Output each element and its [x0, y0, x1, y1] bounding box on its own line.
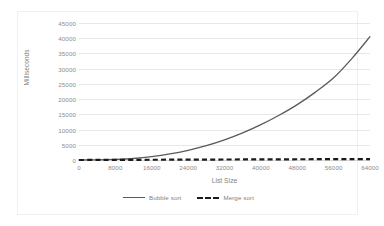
x-tick-label: 8000: [95, 164, 135, 171]
legend-item[interactable]: Bubble sort: [123, 194, 181, 201]
x-tick-label: 0: [59, 164, 99, 171]
x-tick-label: 40000: [241, 164, 281, 171]
legend-label: Merge sort: [223, 194, 254, 201]
legend-label: Bubble sort: [149, 194, 181, 201]
x-tick-label: 56000: [314, 164, 354, 171]
y-tick-label: 15000: [30, 111, 76, 118]
y-tick-label: 30000: [30, 65, 76, 72]
x-axis-title: List Size: [79, 177, 370, 184]
y-tick-label: 25000: [30, 80, 76, 87]
x-tick-label: 32000: [205, 164, 245, 171]
legend-swatch-icon: [197, 197, 219, 199]
y-axis-tick-labels: 0500010000150002000025000300003500040000…: [26, 23, 76, 160]
plot-area: [79, 23, 370, 160]
y-tick-label: 40000: [30, 35, 76, 42]
x-axis-tick-labels: 0800016000240003200040000480005600064000: [79, 164, 370, 174]
series-line-bubble-sort: [79, 37, 370, 160]
x-tick-label: 48000: [277, 164, 317, 171]
chart-legend: Bubble sortMerge sort: [18, 194, 359, 201]
x-tick-label: 16000: [132, 164, 172, 171]
y-tick-label: 35000: [30, 50, 76, 57]
y-tick-label: 45000: [30, 20, 76, 27]
y-tick-label: 0: [30, 157, 76, 164]
y-tick-label: 20000: [30, 96, 76, 103]
series-lines: [79, 23, 370, 160]
legend-item[interactable]: Merge sort: [197, 194, 254, 201]
y-tick-label: 10000: [30, 126, 76, 133]
y-tick-label: 5000: [30, 141, 76, 148]
series-line-merge-sort: [79, 159, 370, 160]
x-tick-label: 64000: [350, 164, 384, 171]
chart-container: Milliseconds 050001000015000200002500030…: [17, 11, 358, 215]
x-tick-label: 24000: [168, 164, 208, 171]
legend-swatch-icon: [123, 197, 145, 198]
